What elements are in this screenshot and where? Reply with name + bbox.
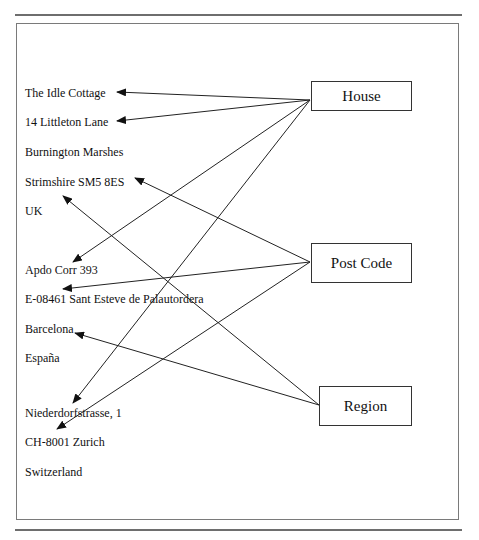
arrow-region-to-barcelona xyxy=(75,333,319,405)
region-label: Region xyxy=(344,398,387,415)
arrow-postcode-to-ch8001 xyxy=(57,262,310,429)
bottom-rule xyxy=(15,529,462,531)
arrow-house-to-idle-cottage xyxy=(117,92,310,100)
house-box: House xyxy=(311,81,412,111)
arrow-house-to-niederdorfstrasse xyxy=(73,100,310,403)
post-code-box: Post Code xyxy=(311,243,412,283)
post-code-label: Post Code xyxy=(331,255,392,272)
region-box: Region xyxy=(319,386,412,426)
arrow-postcode-to-e08461 xyxy=(63,262,310,289)
arrow-region-to-uk xyxy=(63,196,319,405)
arrow-postcode-to-strimshire xyxy=(135,178,310,262)
arrow-house-to-apdo-corr xyxy=(73,100,310,262)
house-label: House xyxy=(342,88,380,105)
arrow-house-to-littleton-lane xyxy=(117,100,310,121)
